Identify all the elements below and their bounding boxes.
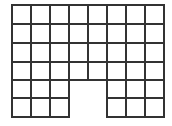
- grid-cell: [145, 62, 164, 80]
- grid-cell: [50, 24, 69, 43]
- grid-cell: [50, 98, 69, 117]
- grid-cell: [126, 62, 145, 80]
- grid-cell: [107, 80, 126, 98]
- grid-cell: [145, 24, 164, 43]
- grid-diagram: [0, 0, 172, 126]
- grid-cell: [107, 24, 126, 43]
- grid-cell: [50, 62, 69, 80]
- grid-cell: [12, 62, 31, 80]
- grid-cell: [126, 5, 145, 24]
- grid-cell: [126, 24, 145, 43]
- grid-cell: [107, 98, 126, 117]
- grid-cell: [69, 62, 88, 80]
- grid-cell: [107, 5, 126, 24]
- grid-cell: [145, 5, 164, 24]
- grid-cell: [50, 80, 69, 98]
- grid-cell: [31, 98, 50, 117]
- grid-cell: [31, 62, 50, 80]
- grid-cell: [126, 43, 145, 62]
- grid-cell: [69, 24, 88, 43]
- grid-cell: [12, 24, 31, 43]
- grid-cell: [145, 98, 164, 117]
- grid-cell: [145, 43, 164, 62]
- grid-cell: [12, 5, 31, 24]
- grid-cell: [107, 43, 126, 62]
- grid-cell: [88, 24, 107, 43]
- grid-cell: [12, 98, 31, 117]
- grid-cell: [69, 5, 88, 24]
- grid-cell: [126, 80, 145, 98]
- grid-cell: [31, 24, 50, 43]
- grid-cell: [50, 43, 69, 62]
- grid-cell: [88, 43, 107, 62]
- grid-cell: [12, 80, 31, 98]
- grid-cell: [50, 5, 69, 24]
- grid-cell: [31, 80, 50, 98]
- grid-cell: [145, 80, 164, 98]
- grid-cell: [69, 43, 88, 62]
- grid-cell: [126, 98, 145, 117]
- grid-cell: [88, 5, 107, 24]
- grid-cell: [31, 5, 50, 24]
- grid-cell: [12, 43, 31, 62]
- grid-cell: [107, 62, 126, 80]
- grid-cell: [31, 43, 50, 62]
- grid-cell: [88, 62, 107, 80]
